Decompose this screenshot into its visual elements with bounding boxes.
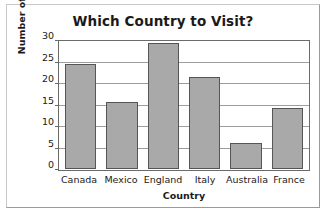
x-axis-tick-label: France bbox=[268, 174, 310, 186]
x-axis-title: Country bbox=[58, 190, 310, 201]
bar-australia bbox=[230, 143, 261, 169]
x-axis-tick-labels: CanadaMexicoEnglandItalyAustraliaFrance bbox=[58, 174, 310, 188]
chart-figure: Which Country to Visit? Number of People… bbox=[6, 4, 320, 208]
bar-england bbox=[148, 43, 179, 169]
bar-slot bbox=[184, 42, 225, 169]
y-axis-tick-labels: 051015202530 bbox=[32, 40, 54, 171]
y-axis-tick-label: 25 bbox=[34, 53, 54, 63]
y-axis-tick-label: 15 bbox=[34, 96, 54, 106]
chart-title: Which Country to Visit? bbox=[7, 13, 319, 29]
x-axis-tick-label: Australia bbox=[226, 174, 268, 186]
y-axis-tick-label: 10 bbox=[34, 117, 54, 127]
y-axis-tick-label: 30 bbox=[34, 31, 54, 41]
bar-slot bbox=[60, 42, 101, 169]
x-axis-tick-label: Italy bbox=[184, 174, 226, 186]
bar-slot bbox=[225, 42, 266, 169]
bar-slot bbox=[101, 42, 142, 169]
y-axis-title: Number of People bbox=[15, 0, 29, 69]
bar-italy bbox=[189, 77, 220, 169]
x-axis-tick-label: England bbox=[142, 174, 184, 186]
x-axis-tick-label: Mexico bbox=[100, 174, 142, 186]
bar-slot bbox=[143, 42, 184, 169]
y-axis-tick-label: 5 bbox=[34, 139, 54, 149]
bar-series bbox=[60, 42, 308, 169]
y-axis-tick-label: 20 bbox=[34, 74, 54, 84]
y-axis-tick-label: 0 bbox=[34, 160, 54, 170]
x-axis-tick-label: Canada bbox=[58, 174, 100, 186]
bar-slot bbox=[267, 42, 308, 169]
bar-france bbox=[272, 108, 303, 169]
bar-mexico bbox=[106, 102, 137, 170]
bar-canada bbox=[65, 64, 96, 169]
plot-area bbox=[58, 40, 310, 171]
